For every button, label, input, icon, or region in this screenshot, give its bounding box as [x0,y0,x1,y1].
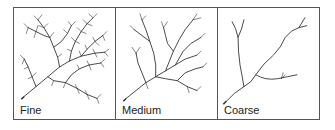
panel-fine: Fine [14,8,116,119]
medium-drainage-network [116,8,217,119]
outlet-arrow [123,98,126,101]
panel-label-medium: Medium [122,104,161,116]
fine-drainage-network [14,8,115,119]
panel-label-fine: Fine [20,104,41,116]
outlet-arrow [21,96,24,99]
panel-coarse: Coarse [218,8,319,119]
drainage-density-figure: Fine Medium [13,7,320,120]
panel-medium: Medium [116,8,218,119]
coarse-drainage-network [218,8,319,119]
panel-label-coarse: Coarse [224,104,259,116]
